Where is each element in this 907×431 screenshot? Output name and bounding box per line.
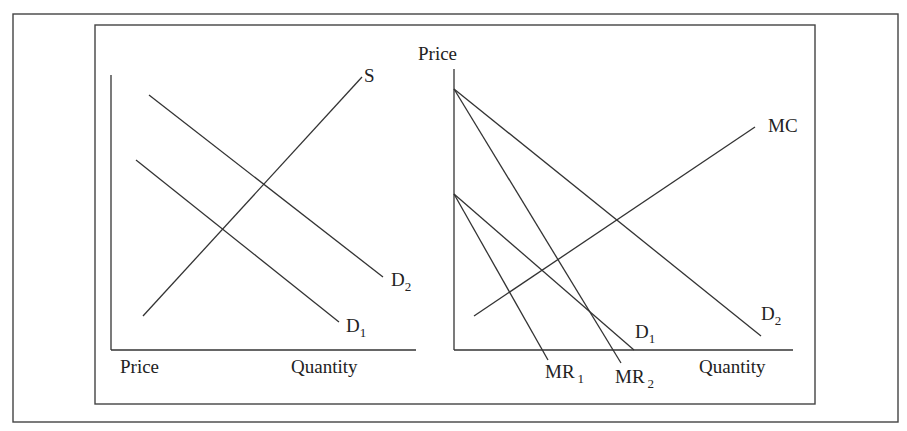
right-label-d1: D1	[635, 321, 655, 346]
diagram-canvas: S D2 D1 Price Quantity Price MC D2 D1 MR…	[0, 0, 907, 431]
right-label-mc: MC	[768, 115, 798, 136]
left-axis-label-quantity: Quantity	[291, 356, 358, 377]
left-label-d1: D1	[346, 315, 366, 340]
left-label-d2: D2	[391, 269, 411, 294]
right-label-d2: D2	[761, 303, 781, 328]
right-axis-label-quantity: Quantity	[699, 356, 766, 377]
left-supply-curve	[143, 77, 362, 316]
inner-frame	[95, 25, 815, 404]
left-demand-curve-d2	[149, 95, 383, 277]
right-label-mr2: MR2	[615, 366, 654, 391]
left-axis-label-price: Price	[120, 356, 159, 377]
right-demand-curve-d1	[454, 194, 634, 350]
left-demand-curve-d1	[136, 160, 339, 322]
right-mc-curve	[474, 127, 755, 316]
right-mr2-curve	[454, 89, 621, 363]
right-axis-label-price: Price	[418, 43, 457, 64]
left-panel: S D2 D1 Price Quantity	[111, 65, 416, 377]
right-label-mr1: MR1	[545, 361, 584, 386]
right-panel: Price MC D2 D1 MR1 MR2 Quantity	[418, 43, 798, 391]
left-label-s: S	[364, 65, 375, 86]
